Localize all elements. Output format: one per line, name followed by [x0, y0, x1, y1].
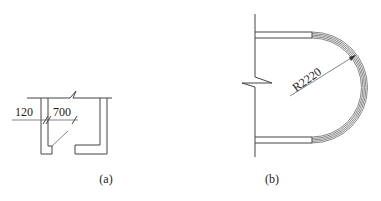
top-straight-segment	[255, 32, 312, 38]
dimension-wall-thickness: 120	[15, 105, 33, 119]
wall-break-line	[242, 14, 272, 157]
curved-arc-bands	[312, 32, 368, 143]
door-swing-line	[52, 131, 68, 146]
top-wall-line	[27, 91, 112, 98]
figure-canvas: 120 700 (a) R2220 (b)	[0, 0, 381, 201]
dimension-opening-width: 700	[53, 105, 71, 119]
panel-b-drawing: R2220	[242, 14, 368, 157]
left-wall-inner	[48, 98, 52, 146]
panel-a-label: (a)	[99, 172, 112, 186]
radius-dimension-label: R2220	[290, 65, 324, 95]
right-wall	[75, 98, 107, 154]
bottom-straight-segment	[255, 137, 312, 143]
panel-b-label: (b)	[265, 172, 279, 186]
panel-a-drawing: 120 700	[12, 91, 112, 154]
